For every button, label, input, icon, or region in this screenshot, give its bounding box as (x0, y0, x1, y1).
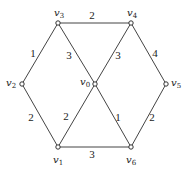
node-v6 (129, 145, 133, 149)
node-label-v0: v0 (80, 76, 90, 89)
edge-weight-v5-v6: 2 (149, 111, 155, 123)
edge-weight-v3-v4: 2 (89, 9, 95, 21)
node-label-v3: v3 (54, 7, 64, 20)
node-label-v4: v4 (127, 7, 138, 20)
nodes-group (20, 21, 168, 149)
edge-v3-v0 (58, 23, 95, 84)
edge-weight-v3-v2: 1 (30, 47, 36, 59)
node-label-v5: v5 (171, 77, 181, 90)
edge-weight-v4-v0: 3 (115, 49, 121, 61)
node-v3 (56, 21, 60, 25)
edge-v3-v2 (22, 23, 58, 84)
weighted-graph-diagram: 2133422123 v0v1v2v3v4v5v6 (0, 0, 189, 169)
node-label-v2: v2 (6, 77, 16, 90)
node-v0 (93, 82, 97, 86)
node-v5 (164, 82, 168, 86)
edge-weight-v2-v1: 2 (28, 111, 34, 123)
node-v4 (129, 21, 133, 25)
node-v2 (20, 82, 24, 86)
node-v1 (56, 145, 60, 149)
edge-v4-v0 (95, 23, 131, 84)
edge-weight-v1-v6: 3 (89, 148, 95, 160)
edge-weight-v0-v1: 2 (63, 110, 69, 122)
edge-weight-v0-v6: 1 (115, 111, 121, 123)
node-label-v6: v6 (126, 154, 137, 167)
edge-v4-v5 (131, 23, 166, 84)
edge-weight-v4-v5: 4 (152, 47, 158, 59)
edge-v0-v6 (95, 84, 131, 147)
node-label-v1: v1 (53, 154, 63, 167)
edge-weight-v3-v0: 3 (66, 49, 72, 61)
